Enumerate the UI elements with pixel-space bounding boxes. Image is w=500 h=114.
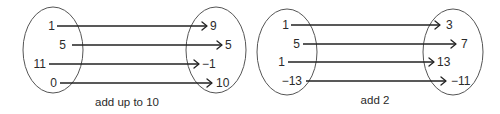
domain-value: 1 (278, 55, 285, 69)
mapping-diagrams: 195511−1010add up to 10 1357113−13−11add… (0, 0, 500, 114)
codomain-value: 3 (446, 18, 453, 32)
domain-value: 5 (293, 37, 300, 51)
mapping-row: 010 (50, 76, 229, 90)
mapping-row: 55 (59, 38, 232, 52)
codomain-value: −11 (451, 74, 471, 88)
diagram-caption: add 2 (361, 94, 390, 106)
codomain-value: 10 (216, 76, 230, 90)
codomain-value: 13 (437, 55, 451, 69)
domain-value: 5 (59, 38, 66, 52)
domain-value: 11 (34, 57, 47, 71)
diagram-add-2: 1357113−13−11add 2 (257, 9, 483, 106)
codomain-value: −1 (202, 57, 216, 71)
mapping-row: −13−11 (282, 74, 471, 88)
codomain-value: 5 (225, 38, 232, 52)
domain-value: 1 (282, 18, 289, 32)
mapping-row: 19 (48, 19, 217, 33)
domain-value: 1 (48, 19, 55, 33)
diagram-add-up-to-10: 195511−1010add up to 10 (23, 7, 246, 108)
diagram-caption: add up to 10 (95, 96, 159, 108)
mapping-row: 57 (293, 37, 468, 51)
codomain-value: 7 (461, 37, 468, 51)
domain-value: 0 (50, 76, 57, 90)
domain-value: −13 (282, 74, 303, 88)
codomain-value: 9 (210, 19, 217, 33)
